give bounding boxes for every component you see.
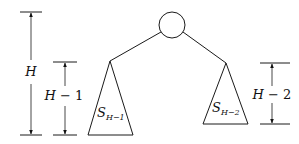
height-measure-h-minus-2: H − 2 <box>252 63 292 124</box>
root-node <box>159 12 185 38</box>
right-subtree: SH−2 <box>203 63 248 124</box>
measure-label-h: H <box>24 64 37 79</box>
tree-diagram: SH−1 SH−2 H H − 1 H − 2 <box>0 0 299 144</box>
edge-right <box>183 32 226 63</box>
height-measure-h-minus-1: H − 1 <box>44 62 84 135</box>
measure-label-h-minus-1: H − 1 <box>44 88 84 103</box>
measure-label-h-minus-2: H − 2 <box>252 87 292 102</box>
edge-left <box>110 32 161 61</box>
height-measure-h: H <box>20 12 42 135</box>
left-subtree: SH−1 <box>88 61 133 135</box>
